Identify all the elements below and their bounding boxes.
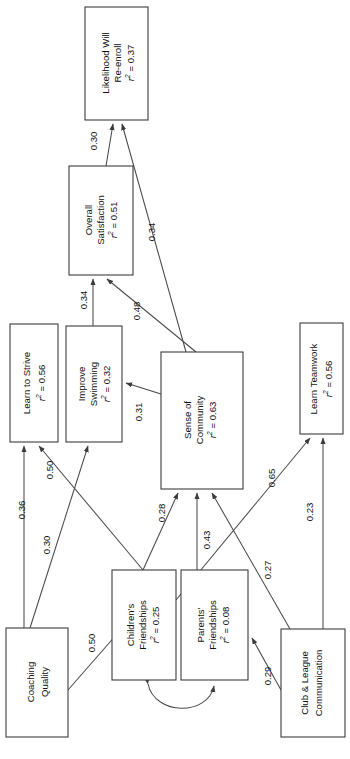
node-coaching-quality[interactable]: Coaching Quality: [6, 628, 68, 737]
node-label-line2: Friendships: [137, 600, 148, 650]
node-label-line1: Likelihood Will: [100, 32, 111, 93]
node-childrens-friendships[interactable]: Children's Friendships r2 = 0.25: [112, 570, 176, 680]
node-club-league-communication[interactable]: Club & League Communication: [281, 629, 345, 737]
node-likelihood-reenroll[interactable]: Likelihood Will Re-enroll r2 = 0.37: [85, 7, 148, 120]
node-label-line2: Communication: [313, 650, 324, 717]
coef-satisfaction-to-reenroll: 0.30: [88, 132, 99, 151]
coef-coaching-to-children: 0.50: [86, 634, 97, 653]
node-label-line1: Coaching: [25, 662, 36, 703]
node-label-line1: Learn Teamwork: [308, 343, 319, 414]
coef-community-to-satisfaction: 0.48: [131, 302, 142, 321]
coef-coaching-to-strive: 0.36: [16, 501, 27, 520]
node-label-line2: Friendships: [207, 600, 218, 650]
node-label-line1: Sense of: [182, 401, 193, 439]
coef-parents-to-community: 0.43: [201, 531, 212, 550]
node-label-line2: Community: [194, 396, 205, 445]
node-label-line1: Children's: [125, 604, 136, 647]
coef-community-to-swimming: 0.31: [133, 403, 144, 422]
node-overall-satisfaction[interactable]: Overall Satisfaction r2 = 0.51: [69, 166, 133, 275]
coef-children-to-teamwork: 0.65: [266, 469, 277, 488]
coef-children-to-community: 0.28: [156, 504, 167, 523]
node-label-line2: Re-enroll: [112, 44, 123, 83]
node-label-line1: Parents': [195, 607, 206, 642]
coef-children-to-strive: 0.50: [44, 461, 55, 480]
coef-club-to-parents: 0.29: [262, 667, 273, 686]
node-parents-friendships[interactable]: Parents' Friendships r2 = 0.08: [181, 570, 248, 680]
node-label-line1: Overall: [83, 205, 94, 235]
node-label-line1: Learn to Strive: [21, 352, 32, 414]
coef-swimming-to-satisfaction: 0.34: [78, 290, 89, 309]
coef-community-to-reenroll: 0.34: [146, 222, 157, 241]
node-label-line1: Club & League: [299, 651, 310, 714]
covariance-children-parents: [148, 684, 214, 708]
path-community-to-swimming: [126, 383, 161, 394]
node-learn-to-strive[interactable]: Learn to Strive r2 = 0.56: [10, 324, 58, 442]
coef-club-to-teamwork: 0.23: [304, 503, 315, 522]
coef-coaching-to-swimming: 0.30: [41, 536, 52, 555]
coef-club-to-community: 0.27: [262, 561, 273, 580]
node-label-line2: Swimming: [88, 362, 99, 406]
diagram-canvas: Likelihood Will Re-enroll r2 = 0.37 Over…: [0, 0, 350, 759]
node-label-line2: Quality: [39, 667, 50, 697]
node-sense-of-community[interactable]: Sense of Community r2 = 0.63: [161, 352, 243, 489]
sem-path-diagram: Likelihood Will Re-enroll r2 = 0.37 Over…: [0, 0, 350, 759]
node-learn-teamwork[interactable]: Learn Teamwork r2 = 0.56: [300, 323, 343, 434]
path-coaching-to-swimming: [30, 446, 88, 628]
path-satisfaction-to-reenroll: [106, 124, 113, 166]
node-label-line1: Improve: [76, 367, 87, 402]
node-label-line2: Satisfaction: [95, 195, 106, 245]
node-improve-swimming[interactable]: Improve Swimming r2 = 0.32: [66, 326, 122, 442]
